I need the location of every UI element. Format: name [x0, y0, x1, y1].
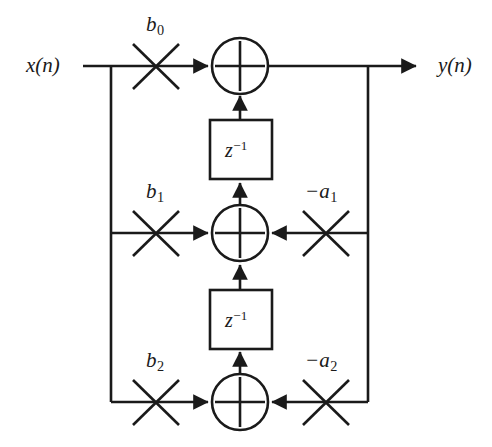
delay-sup-2: −1	[233, 308, 248, 323]
coefficient-label-a2: −a2	[305, 350, 337, 373]
coefficient-label-b2: b2	[146, 350, 164, 373]
delay-label-1: z−1	[225, 139, 247, 160]
input-label: x(n)	[26, 55, 60, 76]
coefficient-label-b1: b1	[146, 181, 164, 204]
coef-base-b1: b	[146, 179, 157, 203]
signal-flow-diagram: x(n) y(n) b0 b1 b2 −a1 −a2 z−1 z−1	[0, 0, 492, 447]
flow-graph-canvas	[0, 0, 492, 447]
coef-sub-b1: 1	[157, 189, 165, 205]
coef-sub-a2: 2	[330, 358, 338, 374]
coef-base-a1: −a	[305, 179, 330, 203]
delay-base-1: z	[225, 139, 233, 161]
delay-base-2: z	[225, 309, 233, 331]
coef-base-a2: −a	[305, 348, 330, 372]
coef-base-b2: b	[146, 348, 157, 372]
coef-sub-b2: 2	[157, 358, 165, 374]
delay-sup-1: −1	[233, 138, 248, 153]
coef-sub-b0: 0	[157, 22, 165, 38]
coefficient-label-a1: −a1	[305, 181, 337, 204]
coef-sub-a1: 1	[330, 189, 338, 205]
delay-label-2: z−1	[225, 309, 247, 330]
coef-base-b0: b	[146, 12, 157, 36]
output-label: y(n)	[438, 55, 472, 76]
coefficient-label-b0: b0	[146, 14, 164, 37]
